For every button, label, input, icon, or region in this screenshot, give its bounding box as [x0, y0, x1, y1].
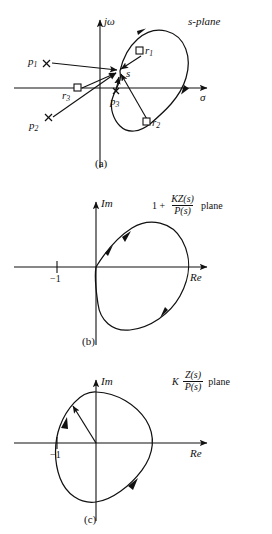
expr-fraction-b: KZ(s) P(s)	[169, 194, 196, 217]
im-axis-label-b: Im	[101, 198, 113, 209]
plane-expression-b: 1 + KZ(s) P(s) plane	[152, 194, 223, 217]
contour-c-arrow-upper-left	[61, 417, 68, 429]
point-label-r1: r1	[145, 45, 153, 58]
contour-c	[56, 392, 153, 502]
sigma-axis-label: σ	[200, 92, 205, 103]
point-label-r3: r3	[62, 90, 70, 103]
vector-r2-to-s	[121, 74, 148, 121]
contour-b	[95, 222, 188, 330]
tick-label-minus-one-c: −1	[50, 450, 61, 460]
origin-vector-c	[73, 406, 96, 443]
vector-p1-to-s	[52, 63, 117, 70]
point-label-s: s	[126, 68, 130, 79]
s-plane-label: s-plane	[188, 16, 220, 27]
expr-denominator-b: P(s)	[172, 205, 193, 217]
expr-numerator-c: Z(s)	[183, 370, 203, 381]
expr-tail-b: plane	[201, 200, 223, 211]
expr-numerator-b: KZ(s)	[169, 194, 196, 205]
plane-expression-c: K Z(s) P(s) plane	[172, 370, 230, 393]
caption-a: (a)	[95, 158, 107, 169]
expr-lead-b: 1 +	[152, 200, 165, 211]
caption-c: (c)	[84, 514, 96, 525]
s-plane-diagram	[0, 0, 272, 180]
panel-k-z-over-p-plane: Im Re −1 K Z(s) P(s) plane (c)	[0, 356, 272, 534]
point-label-p2: p2	[29, 120, 38, 133]
expr-tail-c: plane	[208, 376, 230, 387]
panel-s-plane: jω σ s-plane p1 p2 p3 r1 r2 r3 s (a)	[0, 0, 272, 180]
k-z-over-p-diagram	[0, 356, 272, 534]
point-label-r2: r2	[152, 117, 160, 130]
caption-b: (b)	[82, 336, 95, 347]
point-label-p3: p3	[110, 96, 119, 109]
vector-r3-to-s	[82, 73, 116, 88]
contour-b-arrow-upper	[122, 231, 131, 242]
expr-fraction-c: Z(s) P(s)	[183, 370, 204, 393]
re-axis-label-c: Re	[190, 448, 202, 459]
tick-label-minus-one-b: −1	[50, 274, 61, 284]
expr-lead-c: K	[172, 376, 179, 387]
panel-one-plus-kz-over-p-plane: Im Re −1 1 + KZ(s) P(s) plane (b)	[0, 180, 272, 356]
zero-marker-r1	[136, 47, 143, 54]
contour-b-arrow-origin	[105, 245, 113, 256]
pole-marker-p1	[43, 60, 50, 67]
point-label-p1: p1	[28, 56, 37, 69]
zero-marker-r3	[74, 84, 81, 91]
one-plus-kz-over-p-diagram	[0, 180, 272, 356]
im-axis-label-c: Im	[101, 376, 113, 387]
jomega-axis-label: jω	[104, 16, 115, 27]
zero-marker-r2	[143, 118, 150, 125]
pole-marker-p2	[45, 114, 52, 121]
re-axis-label-b: Re	[190, 272, 202, 283]
expr-denominator-c: P(s)	[183, 381, 204, 393]
